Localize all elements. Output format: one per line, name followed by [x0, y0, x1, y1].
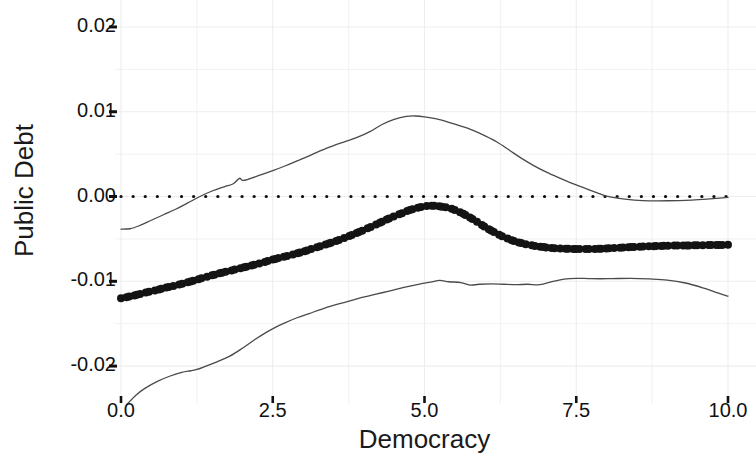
x-tick-label: 2.5 [228, 399, 318, 422]
x-tick-label: 7.5 [531, 399, 621, 422]
x-axis-title: Democracy [121, 424, 728, 455]
x-tick-label: 0.0 [76, 399, 166, 422]
x-tick-label: 5.0 [380, 399, 470, 422]
x-axis-ticks: 0.02.55.07.510.0 [0, 0, 756, 462]
x-tick-label: 10.0 [683, 399, 756, 422]
chart-figure: 0.020.010.00-0.01-0.02 0.02.55.07.510.0 … [0, 0, 756, 462]
y-axis-title: Public Debt [9, 71, 40, 311]
